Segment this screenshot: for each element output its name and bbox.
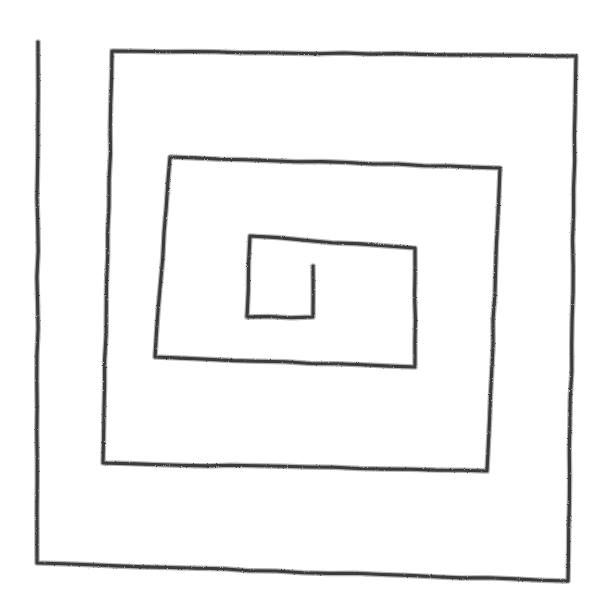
drawing-canvas xyxy=(0,0,603,613)
spiral-drawing xyxy=(0,0,603,613)
paper-background xyxy=(0,0,603,613)
